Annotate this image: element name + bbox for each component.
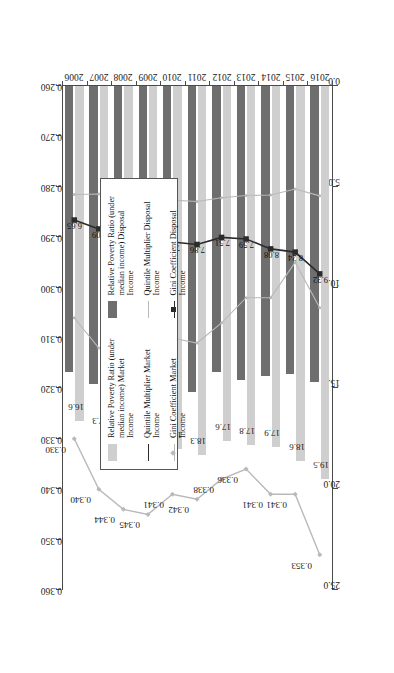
gini-disposal-point xyxy=(318,306,321,309)
legend-line-swatch xyxy=(170,444,179,461)
legend-item: Gini Coefficient Market Income xyxy=(169,332,188,461)
quintile-market-value-label: 7.51 xyxy=(214,238,229,248)
quintile-disposal-point xyxy=(294,188,297,191)
legend-item: Gini Coefficient Disposal Income xyxy=(169,187,188,318)
figure-container: 25.020.015.010.05.00.00.3600.3500.3400.3… xyxy=(0,0,394,673)
quintile-market-value-label: 7.86 xyxy=(190,245,205,255)
gini-disposal-point xyxy=(196,342,199,345)
legend-item-label: Gini Coefficient Disposal Income xyxy=(169,187,188,295)
chart-line-overlay xyxy=(32,26,362,646)
bar-value-label: 16.6 xyxy=(68,402,84,412)
gini-market-value-label: 0.330 xyxy=(46,445,67,455)
bar-value-label: 18.3 xyxy=(191,436,207,446)
quintile-market-value-label: 8.24 xyxy=(288,253,303,263)
gini-disposal-point xyxy=(220,321,223,324)
bar-value-label: 19.5 xyxy=(313,460,329,470)
gini-market-value-label: 0.344 xyxy=(95,515,116,525)
legend-column: Relative Poverty Ratio (under median inc… xyxy=(107,187,188,318)
chart-plot-area: 25.020.015.010.05.00.00.3600.3500.3400.3… xyxy=(32,26,362,646)
legend-line-icon xyxy=(148,301,149,318)
gini-market-value-label: 0.341 xyxy=(242,500,263,510)
gini-market-point xyxy=(317,552,322,557)
bar-value-label: 17.8 xyxy=(240,426,256,436)
legend-square-marker-icon xyxy=(171,307,176,312)
legend-line-icon xyxy=(148,444,149,461)
bar-value-label: 17.9 xyxy=(264,428,280,438)
legend-line-swatch xyxy=(170,301,179,318)
legend-item: Relative Poverty Ratio (under median inc… xyxy=(107,332,136,461)
gini-disposal-point xyxy=(245,296,248,299)
gini-market-value-label: 0.353 xyxy=(291,561,312,571)
quintile-market-value-label: 6.65 xyxy=(67,221,82,231)
gini-market-value-label: 0.345 xyxy=(119,520,140,530)
quintile-disposal-point xyxy=(196,200,199,203)
legend-item-label: Quintile Multiplier Disposal Income xyxy=(143,187,162,295)
legend-item-label: Gini Coefficient Market Income xyxy=(169,332,188,438)
bar-value-label: 17.6 xyxy=(215,422,231,432)
quintile-disposal-point xyxy=(245,194,248,197)
legend-item: Quintile Multiplier Market Income xyxy=(143,332,162,461)
legend-bar-light-icon xyxy=(108,444,117,461)
gini-disposal-point xyxy=(269,296,272,299)
gini-market-value-label: 0.341 xyxy=(267,500,288,510)
gini-disposal-point xyxy=(73,316,76,319)
quintile-market-value-label: 8.08 xyxy=(264,250,279,260)
legend-diamond-marker-icon xyxy=(170,450,176,456)
legend-item: Relative Poverty Ratio (under median inc… xyxy=(107,187,136,318)
quintile-disposal-point xyxy=(220,196,223,199)
quintile-market-value-label: 9.32 xyxy=(313,275,328,285)
legend-item: Quintile Multiplier Disposal Income xyxy=(143,187,162,318)
chart-legend: Relative Poverty Ratio (under median inc… xyxy=(100,178,178,470)
legend-columns: Relative Poverty Ratio (under median inc… xyxy=(107,187,188,461)
quintile-market-value-label: 7.59 xyxy=(239,240,254,250)
legend-line-swatch xyxy=(144,301,153,318)
quintile-disposal-point xyxy=(73,193,76,196)
gini-market-value-label: 0.336 xyxy=(217,475,238,485)
legend-line-swatch xyxy=(144,444,153,461)
quintile-disposal-point xyxy=(318,194,321,197)
gini-market-point xyxy=(72,436,77,441)
bar-value-label: 18.6 xyxy=(289,442,305,452)
legend-item-label: Relative Poverty Ratio (under median inc… xyxy=(107,332,136,438)
legend-item-label: Quintile Multiplier Market Income xyxy=(143,332,162,438)
legend-bar-dark-icon xyxy=(108,301,117,318)
gini-market-value-label: 0.338 xyxy=(193,485,214,495)
gini-market-point xyxy=(293,492,298,497)
quintile-disposal-point xyxy=(269,194,272,197)
legend-item-label: Relative Poverty Ratio (under median inc… xyxy=(107,187,136,295)
legend-column: Relative Poverty Ratio (under median inc… xyxy=(107,332,188,461)
gini-market-value-label: 0.340 xyxy=(70,495,91,505)
gini-market-value-label: 0.341 xyxy=(144,500,165,510)
gini-market-value-label: 0.342 xyxy=(168,505,189,515)
